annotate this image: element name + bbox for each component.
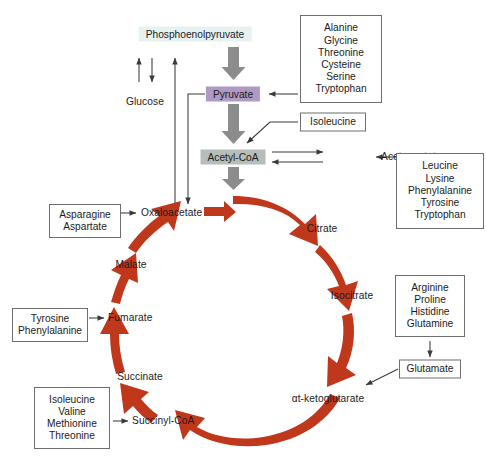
- aa-item: Arginine: [411, 282, 448, 294]
- metabolite-citrate: Citrate: [307, 223, 338, 235]
- arrow-pyruvate-to-acetyl-coa: [222, 104, 246, 144]
- aa-item: Threonine: [49, 430, 95, 442]
- citric-acid-cycle-diagram: Phosphoenolpyruvate Pyruvate Acetyl-CoA …: [0, 0, 486, 461]
- aa-box-to-fumarate[interactable]: Tyrosine Phenylalanine: [12, 308, 88, 342]
- glycolysis-arrow-group: [222, 47, 246, 190]
- isocitrate-label: Isocitrate: [331, 290, 373, 301]
- metabolite-pyruvate[interactable]: Pyruvate: [206, 87, 260, 102]
- aa-box-to-acetyl-coa[interactable]: Isoleucine: [300, 113, 366, 132]
- aa-item: Asparagine: [59, 209, 111, 221]
- aa-item: Leucine: [422, 160, 458, 172]
- aa-item: Glutamine: [407, 318, 453, 330]
- metabolite-alpha-ketoglutarate: αt-ketoglutarate: [292, 393, 365, 405]
- aa-box-to-oxaloacetate[interactable]: Asparagine Aspartate: [49, 204, 121, 238]
- aa-item: Histidine: [410, 306, 449, 318]
- metabolite-succinyl-coa: Succinyl-CoA: [132, 415, 194, 427]
- oxaloacetate-label: Oxaloacetate: [141, 207, 202, 218]
- metabolite-oxaloacetate: Oxaloacetate: [141, 207, 202, 219]
- arrow-pep-to-pyruvate: [222, 47, 246, 80]
- metabolite-fumarate: Fumarate: [108, 312, 152, 324]
- fumarate-label: Fumarate: [108, 312, 152, 323]
- aa-item: Methionine: [47, 418, 97, 430]
- arrow-isoleucine-to-acetyl-coa: [247, 122, 298, 143]
- metabolite-acetyl-coa[interactable]: Acetyl-CoA: [201, 150, 266, 165]
- metabolite-glucose: Glucose: [126, 96, 164, 108]
- aa-item: Tyrosine: [421, 197, 460, 209]
- metabolite-succinate: Succinate: [117, 371, 163, 383]
- aa-item: Serine: [326, 71, 355, 83]
- aa-box-to-glutamate[interactable]: Arginine Proline Histidine Glutamine: [395, 275, 465, 337]
- glutamate-label: Glutamate: [407, 363, 454, 375]
- glucose-label: Glucose: [126, 96, 164, 107]
- aa-item: Tryptophan: [315, 83, 366, 95]
- arrow-glutamate-to-alpha-ketoglutarate: [366, 369, 398, 385]
- aa-item: Isoleucine: [310, 116, 356, 128]
- metabolite-glutamate[interactable]: Glutamate: [399, 360, 461, 379]
- aa-item: Proline: [414, 294, 446, 306]
- succinyl-coa-label: Succinyl-CoA: [132, 415, 194, 426]
- aa-item: Lysine: [425, 173, 454, 185]
- aa-item: Cysteine: [321, 59, 361, 71]
- aa-item: Phenylalanine: [408, 185, 472, 197]
- metabolite-malate: Malate: [115, 259, 146, 271]
- alpha-ketoglutarate-label: αt-ketoglutarate: [292, 393, 365, 404]
- metabolite-isocitrate: Isocitrate: [331, 290, 373, 302]
- aa-box-to-acetoacetate[interactable]: Leucine Lysine Phenylalanine Tyrosine Tr…: [396, 153, 484, 229]
- citrate-label: Citrate: [307, 223, 338, 234]
- aa-item: Threonine: [318, 47, 364, 59]
- malate-label: Malate: [115, 259, 146, 270]
- pyruvate-label: Pyruvate: [213, 89, 253, 100]
- aa-item: Tryptophan: [414, 209, 465, 221]
- aa-box-to-pyruvate[interactable]: Alanine Glycine Threonine Cysteine Serin…: [300, 15, 382, 103]
- arrow-acetyl-coa-to-cycle: [222, 167, 245, 190]
- aa-item: Phenylalanine: [18, 325, 82, 337]
- cycle-arrow-isocitrate-to-alpha-ketoglutarate: [327, 313, 356, 387]
- aa-box-to-succinyl-coa[interactable]: Isoleucine Valine Methionine Threonine: [34, 387, 110, 449]
- aa-item: Tyrosine: [31, 313, 70, 325]
- metabolite-phosphoenolpyruvate[interactable]: Phosphoenolpyruvate: [139, 27, 252, 42]
- cycle-arrow-oxaloacetate-stub: [204, 201, 236, 222]
- cycle-arrow-to-citrate: [233, 196, 318, 246]
- phosphoenolpyruvate-label: Phosphoenolpyruvate: [146, 29, 245, 40]
- aa-item: Isoleucine: [49, 394, 95, 406]
- succinate-label: Succinate: [117, 371, 163, 382]
- aa-item: Valine: [58, 406, 86, 418]
- aa-item: Alanine: [324, 22, 358, 34]
- acetyl-coa-label: Acetyl-CoA: [208, 152, 259, 163]
- aa-item: Aspartate: [63, 221, 107, 233]
- aa-item: Glycine: [324, 35, 358, 47]
